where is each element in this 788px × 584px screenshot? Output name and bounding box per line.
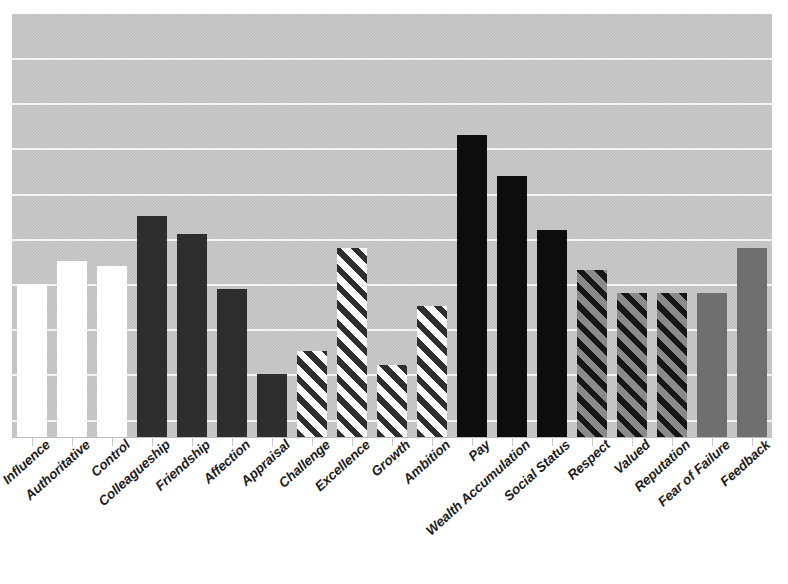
chart-title-cropped <box>0 0 788 14</box>
bar <box>577 270 607 437</box>
bar <box>537 230 567 437</box>
bar <box>497 176 527 437</box>
x-axis-category-labels: InfluenceAuthoritativeControlColleaguesh… <box>0 437 788 584</box>
category-label: Pay <box>465 437 493 464</box>
plot-area <box>12 14 772 437</box>
bar <box>57 261 87 437</box>
category-label: Respect <box>564 437 613 483</box>
bar <box>217 289 247 437</box>
bar <box>657 293 687 437</box>
bar <box>177 234 207 437</box>
bar-series <box>12 14 772 437</box>
bar-chart-figure: InfluenceAuthoritativeControlColleaguesh… <box>0 0 788 584</box>
category-label-text: Pay <box>465 437 493 464</box>
bar <box>737 248 767 437</box>
bar <box>137 216 167 437</box>
bar <box>417 306 447 437</box>
bar <box>617 293 647 437</box>
bar <box>377 365 407 437</box>
bar <box>697 293 727 437</box>
bar <box>257 374 287 437</box>
bar <box>297 351 327 437</box>
bar <box>337 248 367 437</box>
bar <box>457 135 487 437</box>
bar <box>17 284 47 437</box>
bar <box>97 266 127 437</box>
category-label-text: Respect <box>564 437 613 483</box>
